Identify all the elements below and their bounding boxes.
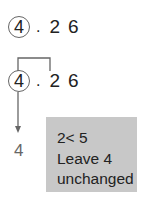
explanation-box: 2< 5 Leave 4 unchanged <box>46 117 137 192</box>
digit-hundredths: 6 <box>68 16 79 38</box>
digit-hundredths: 6 <box>68 70 79 92</box>
decimal-point: . <box>36 72 40 90</box>
circled-digit: 4 <box>8 16 30 38</box>
number-row-2: 4 . 2 6 <box>8 69 79 93</box>
circled-digit: 4 <box>8 70 30 92</box>
comparison-text: 2< 5 <box>57 129 88 147</box>
digit-tenths: 2 <box>49 16 60 38</box>
digit-tenths: 2 <box>49 70 60 92</box>
instruction-text-2: unchanged <box>57 170 134 188</box>
decimal-point: . <box>36 18 40 36</box>
number-row-1: 4 . 2 6 <box>8 15 79 39</box>
instruction-text: Leave 4 <box>57 150 112 168</box>
rounded-result: 4 <box>14 141 23 161</box>
